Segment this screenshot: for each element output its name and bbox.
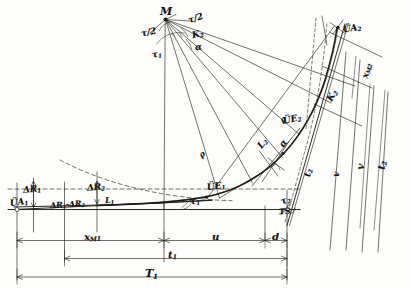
label-dimension-t2: t2: [376, 161, 388, 171]
point-UE1-marker: [205, 196, 208, 199]
construction-lines: [208, 27, 334, 199]
label-L1: L1: [105, 196, 114, 206]
right-offset-lines: [314, 33, 388, 253]
label-dimension-v: v: [356, 164, 367, 171]
label-dimension-d: d: [272, 232, 279, 242]
label-delta-R2: ΔR2: [87, 182, 106, 194]
label-dimension-t1: t1: [168, 250, 177, 261]
label-dimension-T1: T1: [145, 268, 158, 280]
label-dimension-u: u: [212, 232, 219, 242]
label-dimension-x-M1: xM1: [84, 231, 101, 243]
label-TS: TS: [279, 206, 291, 215]
diagram-canvas: .ln{stroke:#1f1c17;fill:none;stroke-line…: [0, 0, 410, 288]
label-point-M: M: [160, 6, 172, 17]
label-tau1-at-M: τ1: [151, 49, 162, 60]
point-M-marker: [164, 18, 168, 22]
point-UE2-marker: [281, 152, 284, 155]
exit-tangent-line: [287, 24, 348, 226]
label-delta-R1: ΔR1: [23, 184, 42, 196]
label-tau1-at-curve: τ1: [189, 196, 200, 208]
osculating-circle-dashed: [60, 160, 232, 201]
diagram-linework: .ln{stroke:#1f1c17;fill:none;stroke-line…: [0, 0, 410, 288]
label-alpha-at-M: α: [194, 42, 202, 52]
label-dimension-t2-inner: t2: [303, 168, 314, 177]
baseline-axis: [8, 172, 300, 280]
